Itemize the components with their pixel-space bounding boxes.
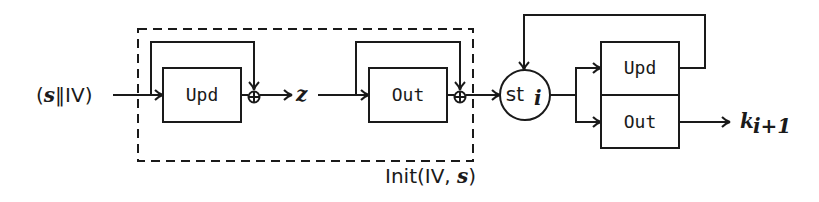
input-label: (s‖IV) [36,83,92,107]
state-label: st [506,82,524,106]
stream-output-label: Out [624,111,657,132]
to-stream-output-arrow [576,95,601,122]
init-update-label: Upd [186,84,219,105]
state-subscript: i [534,86,542,110]
stream-update-label: Upd [624,57,657,78]
init-output-label: Out [392,84,425,105]
diagram-canvas: (s‖IV) Init(IV, s) Upd z Out st i Upd Ou… [0,0,819,202]
z-label: z [295,82,308,106]
keystream-subscript: i+1 [753,114,791,138]
keystream-label: k [740,109,754,133]
xor-icon [455,92,466,103]
xor-icon [249,92,260,103]
to-stream-update-arrow [576,68,601,95]
init-label: Init(IV, s) [385,164,476,188]
